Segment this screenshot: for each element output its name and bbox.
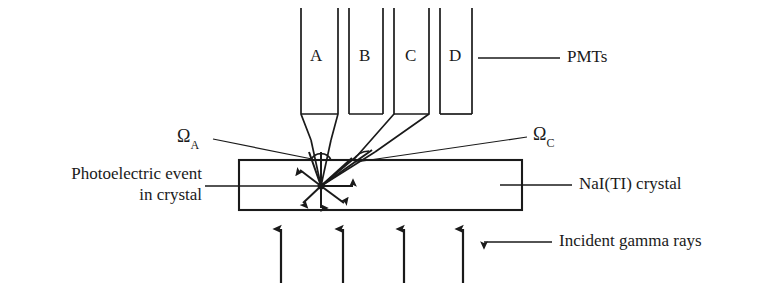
omega-c-symbol: Ω bbox=[533, 124, 546, 144]
omega-c-subscript: C bbox=[546, 136, 554, 150]
omega-a-leader bbox=[213, 139, 312, 159]
pmt-tube-label-d: D bbox=[449, 46, 461, 67]
omega-c-label: ΩC bbox=[533, 124, 554, 148]
pmt-tube-a bbox=[301, 8, 338, 140]
event-point bbox=[318, 183, 325, 190]
photoelectric-event-line1: Photoelectric event bbox=[34, 164, 202, 185]
pmt-tube-label-a: A bbox=[310, 46, 322, 67]
incident-gamma-rays-label: Incident gamma rays bbox=[559, 231, 702, 252]
photoelectric-event-label: Photoelectric event in crystal bbox=[34, 164, 202, 205]
nai-crystal-label: NaI(TI) crystal bbox=[579, 174, 681, 195]
pmt-tube-label-c: C bbox=[405, 46, 416, 67]
omega-a-subscript: A bbox=[190, 138, 199, 152]
pmt-tube-label-b: B bbox=[359, 46, 370, 67]
omega-a-label: ΩA bbox=[177, 126, 199, 150]
scintillation-detector-diagram: A B C D PMTs ΩA ΩC Photoelectric event i… bbox=[0, 0, 761, 295]
omega-c-leader bbox=[356, 137, 527, 162]
pmt-tube-c bbox=[357, 8, 429, 156]
photoelectric-event-burst bbox=[300, 150, 372, 208]
incident-gamma-arrows bbox=[281, 229, 463, 283]
pmts-group-label: PMTs bbox=[567, 47, 607, 68]
photoelectric-event-line2: in crystal bbox=[34, 185, 202, 206]
nai-crystal-box bbox=[239, 160, 522, 210]
omega-a-symbol: Ω bbox=[177, 126, 190, 146]
